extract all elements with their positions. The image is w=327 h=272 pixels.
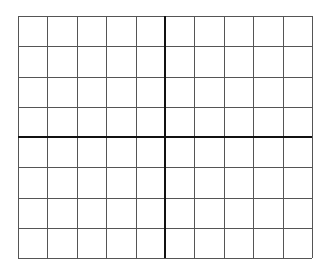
axis-lines: [18, 16, 312, 258]
coordinate-grid: [0, 0, 327, 272]
